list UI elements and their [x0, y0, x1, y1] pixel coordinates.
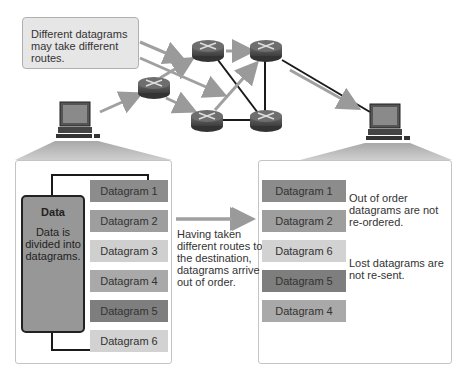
arrow-callout-r2: [140, 42, 182, 60]
callout-text: Different datagrams may take different r…: [31, 28, 127, 64]
data-description: Data is divided into datagrams.: [23, 226, 83, 262]
router-r4-icon: [191, 110, 223, 132]
destination-computer-icon: [366, 104, 410, 140]
link-r3-dest: [282, 60, 370, 112]
source-datagram-4: Datagram 4: [90, 270, 168, 292]
router-r5-icon: [250, 110, 282, 132]
source-datagram-2: Datagram 2: [90, 210, 168, 232]
source-datagram-5: Datagram 5: [90, 300, 168, 322]
callout-box: Different datagrams may take different r…: [22, 17, 139, 69]
router-r3-icon: [250, 40, 282, 62]
source-datagram-1: Datagram 1: [90, 180, 168, 202]
destination-datagram-4: Datagram 5: [262, 270, 346, 292]
destination-datagram-2: Datagram 2: [262, 210, 346, 232]
destination-datagram-5: Datagram 4: [262, 300, 346, 322]
source-cone: [15, 141, 172, 160]
router-r1-icon: [138, 77, 170, 99]
data-title: Data: [23, 206, 83, 218]
source-computer-icon: [56, 102, 100, 138]
note-reorder: Out of order datagrams are not re-ordere…: [349, 192, 449, 228]
data-block: Data Data is divided into datagrams.: [21, 195, 85, 333]
arrow-r3-dest: [290, 70, 356, 107]
destination-cone: [300, 143, 452, 160]
arrow-r1-r4: [166, 98, 192, 110]
router-links: [218, 57, 370, 120]
arrow-r4-r3: [215, 65, 255, 110]
source-datagram-3: Datagram 3: [90, 240, 168, 262]
arrow-src-r1: [100, 95, 138, 112]
transit-text: Having taken different routes to the des…: [177, 228, 267, 288]
router-r2-icon: [192, 40, 224, 62]
destination-datagram-1: Datagram 1: [262, 180, 346, 202]
source-datagram-6: Datagram 6: [90, 330, 168, 352]
note-lost: Lost datagrams are not re-sent.: [349, 257, 454, 281]
destination-datagram-3: Datagram 6: [262, 240, 346, 262]
